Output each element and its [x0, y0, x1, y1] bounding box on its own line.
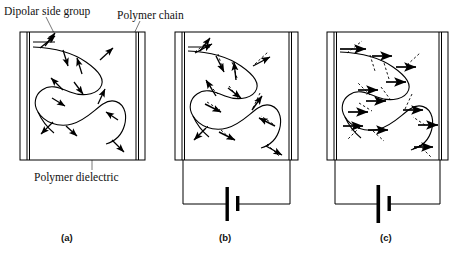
figure-canvas: Dipolar side group Polymer chain Polymer…: [0, 0, 457, 254]
panel-a: [20, 32, 145, 160]
diagram-artwork: [0, 0, 457, 254]
panel-c: [327, 32, 448, 223]
panel-b: [175, 32, 298, 221]
panel-a-dielectric-body: [20, 32, 145, 160]
panel-b-battery-symbol: [226, 187, 240, 221]
panel-c-battery-symbol: [377, 185, 391, 223]
